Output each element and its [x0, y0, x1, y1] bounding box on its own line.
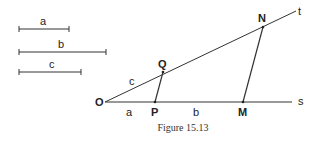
segment-c-label: c: [49, 58, 55, 70]
point-q-label: Q: [158, 58, 167, 70]
point-m-dot: [242, 101, 245, 104]
segment-b: b: [19, 38, 106, 55]
point-n-dot: [262, 26, 265, 29]
figure-caption: Figure 15.13: [157, 122, 208, 133]
ray-t-label: t: [298, 5, 301, 17]
segment-a: a: [19, 15, 69, 32]
segment-c: c: [19, 58, 81, 75]
point-q-dot: [162, 71, 165, 74]
op-length-label: a: [126, 106, 133, 118]
point-p-dot: [154, 101, 157, 104]
segment-a-label: a: [40, 15, 47, 27]
segment-mn: [243, 27, 263, 102]
figure-diagram: a b c O P M Q N s t a b c Figure 15.13: [0, 0, 313, 143]
ray-t: [105, 11, 296, 102]
ray-s-label: s: [298, 95, 304, 107]
oq-length-label: c: [129, 75, 135, 87]
segment-b-label: b: [58, 38, 64, 50]
pm-length-label: b: [193, 106, 199, 118]
point-o-label: O: [95, 96, 104, 108]
point-p-label: P: [151, 106, 158, 118]
point-m-label: M: [238, 106, 247, 118]
point-n-label: N: [258, 12, 266, 24]
